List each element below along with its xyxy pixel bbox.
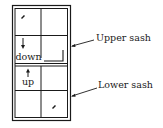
lock-mark-icon [22, 16, 25, 19]
up-label: up [22, 76, 34, 87]
lower-sash-callout: Lower sash [71, 79, 153, 97]
upper-sash-leader-line [72, 40, 94, 46]
upper-sash: down [15, 9, 68, 64]
upper-sash-label: Upper sash [96, 32, 151, 43]
window-diagram: down up Upper sash Lower sash [0, 0, 163, 128]
down-label: down [16, 51, 42, 62]
lower-sash-label: Lower sash [98, 79, 153, 90]
upper-sash-bottom-rail-step [44, 50, 63, 61]
upper-sash-callout: Upper sash [71, 32, 151, 47]
lock-mark-icon [53, 106, 56, 109]
lower-sash: up [15, 66, 68, 117]
arrow-down-icon [21, 38, 25, 49]
lower-sash-leader-line [72, 88, 97, 96]
